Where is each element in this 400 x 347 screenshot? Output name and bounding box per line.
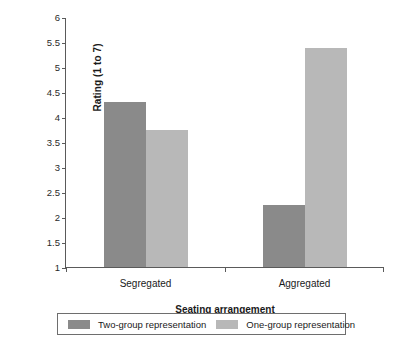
x-axis-category-label: Aggregated (279, 278, 331, 289)
y-axis-tick-label: 2 (26, 213, 60, 223)
legend-label: One-group representation (246, 319, 355, 330)
y-axis-tick-label: 6 (26, 13, 60, 23)
plot-area: Rating (1 to 7) 65.554.543.532.521.51 Se… (65, 18, 383, 268)
x-axis-tick-mark (66, 267, 67, 272)
y-axis-tick-label: 4 (26, 113, 60, 123)
x-axis-category-label: Segregated (120, 278, 172, 289)
legend-swatch (216, 320, 238, 329)
x-axis-tick-mark (383, 267, 384, 272)
y-axis-tick-label: 5 (26, 63, 60, 73)
y-axis-tick-mark (62, 243, 66, 244)
y-axis-tick-label: 3.5 (26, 138, 60, 148)
y-axis-tick-mark (62, 143, 66, 144)
bar (305, 48, 347, 267)
y-axis-tick-mark (62, 193, 66, 194)
bar (263, 205, 305, 268)
bar (146, 130, 188, 268)
y-axis-tick-label: 1 (26, 263, 60, 273)
chart-legend: Two-group representationOne-group repres… (57, 313, 346, 335)
y-axis-tick-mark (62, 93, 66, 94)
bar-chart-figure: Rating (1 to 7) 65.554.543.532.521.51 Se… (0, 0, 400, 347)
legend-swatch (68, 320, 90, 329)
y-axis-tick-label: 2.5 (26, 188, 60, 198)
bar (104, 102, 146, 267)
y-axis-tick-label: 1.5 (26, 238, 60, 248)
y-axis-tick-label: 4.5 (26, 88, 60, 98)
y-axis-tick-mark (62, 43, 66, 44)
y-axis-title: Rating (1 to 7) (92, 3, 103, 153)
y-axis-tick-mark (62, 218, 66, 219)
x-axis-tick-mark (225, 267, 226, 272)
y-axis-tick-label: 3 (26, 163, 60, 173)
y-axis-tick-label: 5.5 (26, 38, 60, 48)
legend-label: Two-group representation (98, 319, 206, 330)
legend-item: Two-group representation (58, 314, 206, 334)
y-axis-tick-mark (62, 68, 66, 69)
y-axis-tick-mark (62, 168, 66, 169)
legend-item: One-group representation (206, 314, 355, 334)
y-axis-tick-mark (62, 118, 66, 119)
y-axis-tick-mark (62, 18, 66, 19)
